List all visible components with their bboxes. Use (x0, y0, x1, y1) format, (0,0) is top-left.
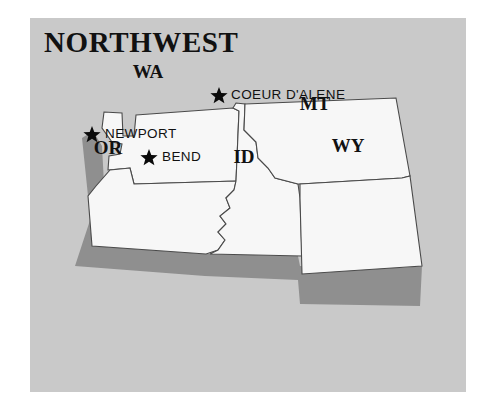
city-label-coeur-dalene: COEUR D'ALENE (231, 87, 345, 102)
state-label-wy: WY (332, 135, 365, 156)
city-label-newport: NEWPORT (105, 126, 177, 141)
map-panel: NORTHWEST WA OR ID (30, 18, 466, 392)
city-marker-coeur-dalene[interactable]: COEUR D'ALENE (210, 87, 345, 103)
map-figure: NORTHWEST WA OR ID (0, 0, 494, 416)
state-label-wa: WA (133, 61, 164, 82)
northwest-map: WA OR ID MT WY (30, 18, 466, 392)
city-label-bend: BEND (162, 149, 201, 164)
star-icon (210, 87, 227, 103)
state-shape-wy[interactable] (300, 176, 422, 274)
state-label-id: ID (233, 146, 254, 167)
state-wa[interactable]: WA (102, 61, 239, 184)
